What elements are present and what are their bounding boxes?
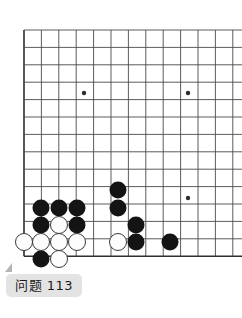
go-board-grid[interactable]: [0, 0, 242, 270]
white-stone[interactable]: [16, 234, 33, 251]
caption-area: 问题 113: [0, 262, 242, 318]
white-stone[interactable]: [69, 234, 86, 251]
problem-label-chip[interactable]: 问题 113: [6, 274, 82, 297]
star-point: [186, 91, 190, 95]
black-stone[interactable]: [33, 200, 50, 217]
black-stone[interactable]: [128, 217, 145, 234]
black-stone[interactable]: [128, 234, 145, 251]
black-stone[interactable]: [110, 200, 127, 217]
star-point: [186, 196, 190, 200]
black-stone[interactable]: [162, 234, 179, 251]
star-points: [82, 91, 190, 200]
black-stone[interactable]: [110, 182, 127, 199]
go-board-container: [0, 0, 242, 270]
white-stone[interactable]: [51, 234, 68, 251]
white-stone[interactable]: [33, 234, 50, 251]
caption-pointer-triangle-icon: [5, 263, 12, 272]
star-point: [82, 91, 86, 95]
white-stone[interactable]: [51, 217, 68, 234]
black-stone[interactable]: [33, 217, 50, 234]
stones-layer: [16, 182, 179, 268]
black-stone[interactable]: [69, 200, 86, 217]
black-stone[interactable]: [69, 217, 86, 234]
problem-label-text: 问题 113: [15, 279, 73, 292]
black-stone[interactable]: [51, 200, 68, 217]
white-stone[interactable]: [110, 234, 127, 251]
